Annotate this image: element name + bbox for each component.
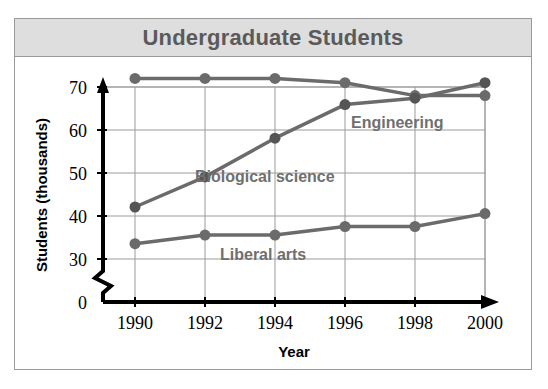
series-label-engineering: Engineering xyxy=(351,114,443,131)
data-point xyxy=(200,230,211,241)
axis-lines xyxy=(95,77,499,309)
x-axis-arrow xyxy=(481,295,499,309)
data-point xyxy=(130,202,141,213)
y-tick-label: 50 xyxy=(69,164,87,184)
data-point xyxy=(130,238,141,249)
data-point xyxy=(410,93,421,104)
data-point xyxy=(270,133,281,144)
y-tick-label: 30 xyxy=(69,250,87,270)
line-chart-svg: 70 60 50 40 30 0 1990 1992 1994 1996 199… xyxy=(15,57,531,370)
series-biological-science xyxy=(135,83,485,207)
y-axis-arrow xyxy=(97,77,109,93)
series-label-biological-science: Biological science xyxy=(195,168,335,185)
chart-title-bar: Undergraduate Students xyxy=(15,19,531,57)
page-title: Undergraduate Students xyxy=(142,25,403,51)
data-point xyxy=(480,77,491,88)
y-axis-title: Students (thousands) xyxy=(33,118,50,272)
series-liberal-arts xyxy=(135,214,485,244)
y-tick-labels: 70 60 50 40 30 0 xyxy=(69,78,87,313)
data-point xyxy=(340,77,351,88)
x-tick-label: 1992 xyxy=(187,313,223,333)
y-tick-label: 60 xyxy=(69,121,87,141)
data-point xyxy=(270,230,281,241)
y-tick-label: 40 xyxy=(69,207,87,227)
data-point xyxy=(410,221,421,232)
chart-figure: Undergraduate Students xyxy=(14,18,532,370)
data-point xyxy=(200,73,211,84)
x-tick-label: 1996 xyxy=(327,313,363,333)
series-liberal-arts-markers xyxy=(130,208,491,249)
x-tick-label: 2000 xyxy=(467,313,503,333)
data-point xyxy=(340,99,351,110)
data-point xyxy=(480,208,491,219)
x-axis-title: Year xyxy=(278,343,310,360)
x-tick-label: 1998 xyxy=(397,313,433,333)
x-tick-label: 1994 xyxy=(257,313,293,333)
plot-area: 70 60 50 40 30 0 1990 1992 1994 1996 199… xyxy=(15,57,531,370)
x-tick-label: 1990 xyxy=(117,313,153,333)
series-label-liberal-arts: Liberal arts xyxy=(220,246,306,263)
data-point xyxy=(480,90,491,101)
data-point xyxy=(270,73,281,84)
data-point xyxy=(130,73,141,84)
series-biological-science-markers xyxy=(130,77,491,212)
x-tick-labels: 1990 1992 1994 1996 1998 2000 xyxy=(117,313,503,333)
y-tick-label: 70 xyxy=(69,78,87,98)
y-tick-label: 0 xyxy=(78,293,87,313)
data-point xyxy=(340,221,351,232)
